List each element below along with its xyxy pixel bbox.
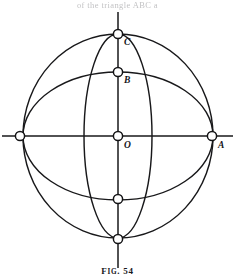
figure-caption: FIG. 54 xyxy=(0,266,235,276)
point-marker-bottom xyxy=(113,234,122,243)
point-marker-a xyxy=(207,131,216,140)
caption-number: . 54 xyxy=(117,266,133,276)
point-marker-left xyxy=(15,131,24,140)
point-label-c: C xyxy=(124,38,130,48)
point-marker-lower xyxy=(113,194,122,203)
caption-smallcaps: IG xyxy=(108,268,118,276)
point-label-o: O xyxy=(124,141,131,151)
point-marker-o xyxy=(113,131,122,140)
point-marker-c xyxy=(113,29,122,38)
point-marker-b xyxy=(113,67,122,76)
figure-container: of the triangle ABC a C B O A FIG. 54 xyxy=(0,0,235,280)
sphere-diagram xyxy=(0,0,235,280)
point-label-b: B xyxy=(124,76,130,86)
point-label-a: A xyxy=(218,141,224,151)
